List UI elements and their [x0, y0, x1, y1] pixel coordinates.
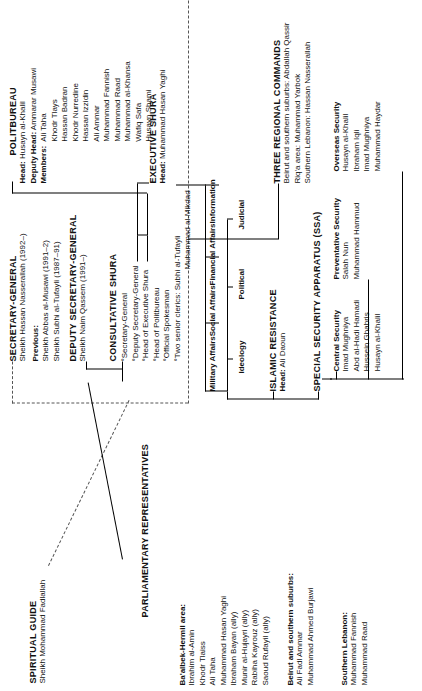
regional-command-1: Riq'a area: Muhammad Yarbok: [293, 22, 304, 183]
executive-shura-block: EXECUTIVE SHURA Head: Muhammad Hasan Yag…: [148, 69, 169, 183]
sub-department-judicial: Judicial: [237, 199, 246, 229]
executive-shura-head-label: Head:: [158, 161, 167, 183]
parliament-beirut-member-0: Ali Fadl Ammar: [295, 573, 306, 685]
ssa-unit-preventative-security-name: Preventative Security: [332, 198, 341, 279]
politbureau-member-3: Khodr Nurredine: [71, 61, 82, 141]
ssa-unit-central-security-name: Central Security: [332, 299, 341, 371]
politbureau-member-8: Muhammad al-Khansa: [123, 61, 134, 141]
spiritual-guide-dashed-link: [48, 400, 130, 566]
parliament-baalbek-member-6: Rabiha Kayrouz (ally): [250, 595, 261, 685]
ssa-preventative-member-0: Salah Nun: [341, 198, 352, 279]
politbureau-member-9: Wafiq Safa: [134, 61, 145, 141]
politbureau-deputy-head: Ammarar Musawi: [29, 67, 38, 129]
parliament-southern-member-0: Muhammad Fannish: [349, 612, 360, 685]
ssa-overseas-member-0: Husayn al-Khalil: [341, 101, 352, 171]
parliament-group-beirut: Beirut and southern suburbs: Ali Fadl Am…: [286, 573, 316, 685]
politbureau-member-2: Hassan Badran: [60, 61, 71, 141]
sub-department-tick-2: [227, 218, 233, 219]
ssa-block: SPECIAL SECURITY APPARATUS (SSA): [312, 211, 322, 391]
department-financial-affairs: Financial Affairs: [208, 223, 217, 285]
islamic-resistance-head: Ali Daoun: [278, 332, 287, 367]
parliamentary-representatives-title: PARLIAMENTARY REPRESENTATIVES: [140, 443, 150, 617]
islamic-resistance-title: ISLAMIC RESISTANCE: [268, 289, 278, 391]
department-tick-1: [205, 322, 219, 323]
ssa-riser: [273, 398, 319, 399]
sub-department-political: Political: [237, 268, 246, 299]
secretary-general-previous-label: Previous:: [31, 325, 40, 361]
parliament-baalbek-member-0: Ibrahim al-Amin: [187, 595, 198, 685]
shura-to-sg-vertical: [86, 368, 122, 369]
parliament-group-beirut-name: Beirut and southern suburbs:: [286, 573, 295, 685]
department-information: Information: [208, 179, 217, 223]
consultative-shura-member-4: °Official Spokesman: [162, 190, 173, 361]
ssa-stem: [318, 391, 319, 399]
shura-branch-riser: [137, 234, 147, 235]
shura-to-sg-horizontal: [86, 361, 87, 369]
spiritual-guide-block: SPIRITUAL GUIDE Sheikh Mohammad Fadlalla…: [28, 579, 49, 683]
shura-politbureau-tick: [147, 235, 148, 261]
department-tick-0: [205, 390, 227, 391]
executive-shura-stem: [137, 183, 138, 235]
executive-shura-title: EXECUTIVE SHURA: [148, 69, 158, 183]
politbureau-head-label: Head:: [18, 161, 27, 183]
politbureau-title: POLITBUREAU: [8, 61, 18, 155]
deputy-secretary-general-name: Sheikh Naim Qassem (1991–): [78, 214, 89, 361]
sub-department-bus: [227, 219, 228, 391]
politbureau-member-1: Khodr Tlays: [50, 61, 61, 141]
executive-departments-bus: [205, 185, 206, 391]
consultative-shura-member-3: °Head of Politbureau: [152, 190, 163, 361]
shura-trunk-horizontal: [122, 361, 123, 381]
ssa-overseas-member-3: Muhammad Haydar: [373, 101, 384, 171]
parliament-group-baalbek-name: Ba'albek-Hermil area:: [178, 595, 187, 685]
parliament-baalbek-member-7: Saoud Rufayil (ally): [261, 595, 272, 685]
parliament-group-southern-lebanon: Southern Lebanon: Muhammad Fannish Muham…: [340, 612, 370, 685]
politbureau-members-label: Members:: [39, 145, 50, 183]
politbureau-member-0: Ali Taha: [39, 61, 50, 141]
politbureau-member-6: Muhammad Fannish: [102, 61, 113, 141]
secretary-general-dashed-rule: [12, 361, 13, 403]
consultative-shura-member-5: °Two senior clerics: Subhi al-Tufayli: [173, 190, 184, 361]
politbureau-deputy-head-label: Deputy Head:: [29, 131, 38, 183]
ssa-central-member-1: Abd al-Hadi Hamadi: [352, 299, 363, 371]
consultative-shura-member-0: °Secretary-General: [120, 190, 131, 361]
parliament-baalbek-member-3: Muhammad Hasan Yaghi: [219, 595, 230, 685]
regional-command-2: Southern Lebanon: Hassan Nasserallah: [303, 22, 314, 183]
executive-departments-row: Military Affairs Social Affairs Financia…: [208, 179, 217, 391]
department-tick-2: [205, 256, 219, 257]
politbureau-member-7: Muhammad Raad: [113, 61, 124, 141]
department-military-affairs: Military Affairs: [208, 336, 217, 391]
islamic-resistance-top-tie: [227, 391, 228, 399]
politbureau-bracket-stem: [147, 193, 148, 235]
regional-commands-riser: [188, 238, 278, 239]
spiritual-guide-title: SPIRITUAL GUIDE: [28, 579, 38, 683]
sub-department-judicial-wrap: Judicial: [230, 199, 248, 229]
executive-shura-riser: [137, 182, 149, 183]
ssa-unit-preventative-security: Preventative Security Salah Nun Muhammad…: [332, 198, 362, 279]
parliamentary-representatives-block: PARLIAMENTARY REPRESENTATIVES: [140, 443, 150, 617]
department-tick-3: [205, 184, 219, 185]
ssa-unit-overseas-security-name: Overseas Security: [332, 101, 341, 171]
ssa-unit-overseas-security: Overseas Security Husayn al-Khalil Ibrah…: [332, 101, 383, 171]
islamic-resistance-head-label: Head:: [278, 369, 287, 391]
ssa-unit-drop: [322, 378, 332, 379]
ssa-tick-overseas: [402, 171, 403, 379]
secretary-general-previous-0: Sheikh Abbas al-Musawi (1991–2): [41, 233, 52, 361]
ssa-tick-central: [336, 371, 337, 379]
politbureau-member-4: Hassan Izzidin: [81, 61, 92, 141]
shura-exec-tick: [137, 235, 138, 261]
consultative-shura-member-1: °Deputy Secretary-General: [131, 190, 142, 361]
sub-department-tick-1: [227, 286, 233, 287]
ssa-tick-preventative: [368, 279, 369, 379]
consultative-shura-member-5-cont: Muhammad al-Mikdad: [183, 190, 194, 269]
secretary-general-title: SECRETARY-GENERAL: [8, 233, 18, 361]
parliament-group-baalbek: Ba'albek-Hermil area: Ibrahim al-Amin Kh…: [178, 595, 271, 685]
sub-department-political-wrap: Political: [230, 268, 248, 299]
parliament-baalbek-member-5: Munir al-Hujayri (ally): [240, 595, 251, 685]
parliament-southern-member-1: Muhammad Raad: [360, 612, 371, 685]
regional-commands-stem: [278, 183, 279, 239]
secretary-general-previous-1: Sheikh Subhi al-Tufayli (1987–91): [52, 233, 63, 361]
parliament-beirut-member-1: Muhammad Ahmed Burjawi: [306, 573, 317, 685]
ssa-unit-central-security: Central Security Imad Mughniya Abd al-Ha…: [332, 299, 383, 371]
parliament-baalbek-member-4: Ibraham Bayan (ally): [229, 595, 240, 685]
parliament-baalbek-member-1: Khodr Tlaiss: [198, 595, 209, 685]
